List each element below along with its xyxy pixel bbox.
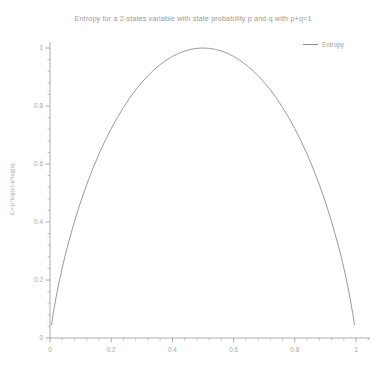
y-axis-title: E=-p*log(p)-q*log(q): [9, 144, 15, 234]
plot-area: [0, 0, 386, 371]
chart-legend: Entropy: [303, 41, 344, 48]
y-tick-label: 1: [17, 44, 43, 51]
x-tick-label: 0: [35, 346, 65, 353]
x-tick-label: 0.4: [157, 346, 187, 353]
x-tick-label: 0.2: [96, 346, 126, 353]
x-tick-label: 1: [341, 346, 371, 353]
y-tick-label: 0.2: [17, 276, 43, 283]
y-tick-label: 0: [17, 334, 43, 341]
chart-figure: Entropy for a 2-states variable with sta…: [0, 0, 386, 371]
y-tick-label: 0.6: [17, 160, 43, 167]
y-tick-label: 0.4: [17, 218, 43, 225]
legend-label-entropy: Entropy: [322, 41, 344, 48]
y-tick-label: 0.8: [17, 102, 43, 109]
x-tick-label: 0.8: [280, 346, 310, 353]
legend-line-icon: [303, 44, 318, 45]
series-line-0: [52, 48, 355, 325]
x-tick-label: 0.6: [219, 346, 249, 353]
